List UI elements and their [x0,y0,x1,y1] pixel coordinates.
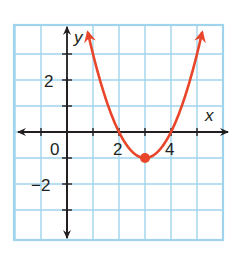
x-axis-label: x [204,106,214,125]
y-axis-label: y [73,28,84,47]
y-tick-label-2: 2 [44,72,53,91]
vertex-point [140,153,150,163]
x-tick-label-4: 4 [165,140,174,159]
y-tick-label-neg2: −2 [31,176,50,195]
parabola-graph: y x 0 2 4 2 −2 [0,0,234,253]
x-tick-label-2: 2 [113,140,122,159]
origin-label: 0 [50,140,59,159]
